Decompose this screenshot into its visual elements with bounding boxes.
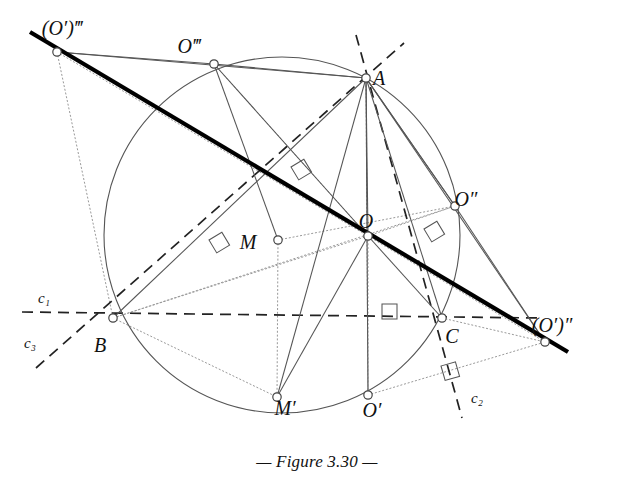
dotted-line [57, 52, 113, 318]
dashed-line-c1-line [22, 312, 540, 318]
geometry-diagram: (O′)‴O‴AO″OMBC(O′)″M′O′ c₁c₃c₂ [0, 0, 634, 503]
solid-line [366, 78, 442, 318]
point-label-O3: O‴ [178, 35, 202, 57]
line-label-c2: c₂ [471, 390, 483, 406]
right-angle-mark [209, 232, 230, 253]
circumcircle [104, 57, 460, 413]
line-labels-group: c₁c₃c₂ [24, 290, 483, 406]
bold-euler-line [30, 32, 568, 352]
point-label-Op2: (O′)″ [532, 314, 573, 337]
line-label-c3: c₃ [24, 335, 36, 351]
bold-line-group [30, 32, 568, 352]
point-marker-B [109, 314, 117, 322]
solid-line [366, 78, 455, 206]
figure-page: (O′)‴O‴AO″OMBC(O′)″M′O′ c₁c₃c₂ — Figure … [0, 0, 634, 503]
dashed-lines-group [22, 35, 540, 418]
point-marker-M [274, 236, 282, 244]
thin-solid-lines-group [57, 52, 545, 397]
point-label-C: C [445, 325, 459, 347]
figure-caption: — Figure 3.30 — [0, 452, 634, 472]
right-angle-mark [441, 362, 460, 381]
dotted-construction-lines [57, 52, 545, 397]
point-marker-A [362, 74, 370, 82]
circumcircle-group [104, 57, 460, 413]
point-label-A: A [371, 67, 386, 89]
line-label-c1: c₁ [38, 290, 50, 306]
point-marker-Op3 [53, 48, 61, 56]
point-label-Mp: M′ [273, 397, 296, 419]
point-label-Op: O′ [363, 399, 382, 421]
dotted-line [57, 52, 368, 236]
dotted-line [368, 342, 545, 395]
point-label-O: O [359, 210, 373, 232]
dotted-line [113, 206, 455, 318]
point-label-B: B [94, 334, 106, 356]
point-label-M: M [239, 231, 258, 253]
point-label-O2: O″ [455, 188, 478, 210]
point-markers-group [53, 48, 549, 401]
dashed-line-c3-line [36, 43, 404, 368]
point-labels-group: (O′)‴O‴AO″OMBC(O′)″M′O′ [42, 17, 573, 421]
point-marker-C [438, 314, 446, 322]
dotted-line [277, 240, 278, 397]
right-angle-mark [424, 221, 445, 242]
solid-line [214, 64, 368, 236]
dotted-line [113, 318, 277, 397]
solid-line [368, 236, 442, 318]
point-label-Op3: (O′)‴ [42, 17, 84, 40]
point-marker-Op2 [541, 338, 549, 346]
point-marker-O3 [210, 60, 218, 68]
point-marker-O [364, 232, 372, 240]
